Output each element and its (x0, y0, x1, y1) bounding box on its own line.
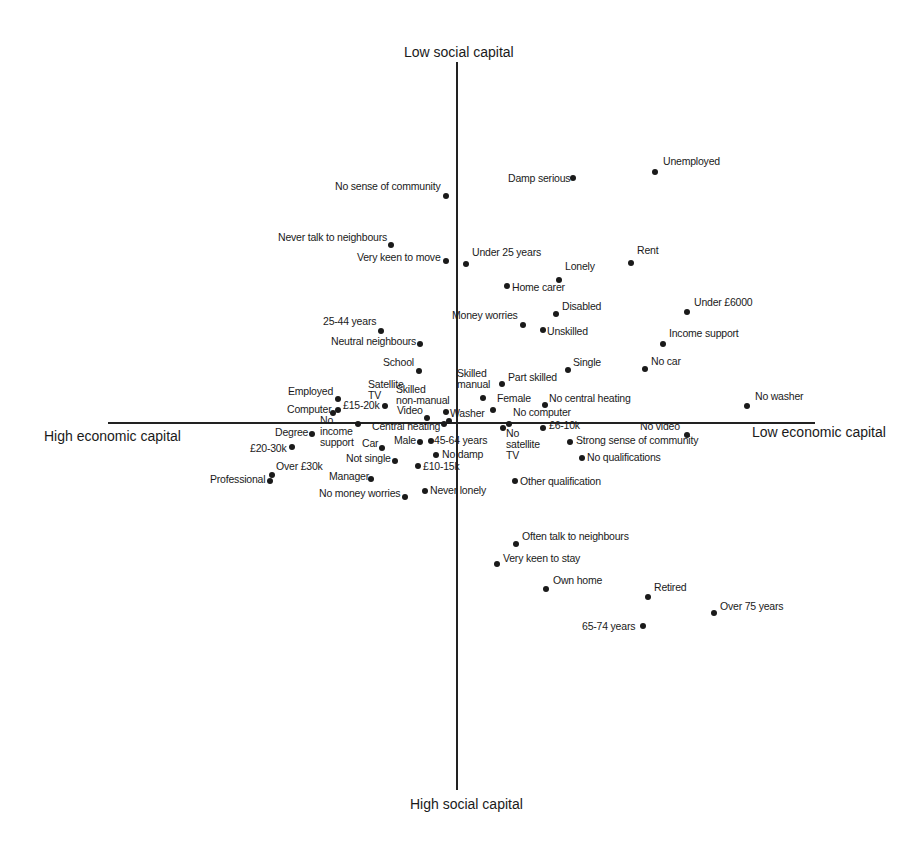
data-point-marker (660, 341, 666, 347)
data-point-marker (388, 242, 394, 248)
data-point-label: Disabled (562, 301, 601, 312)
data-point-marker (309, 431, 315, 437)
data-point-marker (463, 261, 469, 267)
data-point-marker (520, 322, 526, 328)
data-point-label: Employed (288, 386, 333, 397)
data-point-label: Income support (669, 328, 739, 339)
data-point-label: 45-64 years (434, 435, 487, 446)
data-point-label: Degree (275, 427, 308, 438)
data-point-marker (433, 452, 439, 458)
data-point-label: Washer (450, 408, 485, 419)
data-point-marker (289, 444, 295, 450)
data-point-label: Home carer (512, 282, 565, 293)
data-point-marker (512, 478, 518, 484)
data-point-label: No qualifications (587, 452, 661, 463)
data-point-marker (579, 455, 585, 461)
data-point-marker (379, 445, 385, 451)
data-point-label: Never lonely (430, 485, 486, 496)
data-point-marker (402, 494, 408, 500)
data-point-label: £6-10k (549, 420, 580, 431)
data-point-marker (565, 367, 571, 373)
data-point-label: Under 25 years (472, 247, 541, 258)
data-point-label: No sense of community (335, 181, 441, 192)
data-point-label: Female (497, 393, 531, 404)
data-point-label: Lonely (565, 261, 595, 272)
y-axis-line (456, 62, 458, 790)
data-point-label: Single (573, 357, 601, 368)
data-point-marker (441, 421, 447, 427)
data-point-marker (494, 561, 500, 567)
data-point-label: No car (651, 356, 681, 367)
data-point-label: Under £6000 (694, 297, 753, 308)
data-point-marker (504, 283, 510, 289)
data-point-label: Skilled non-manual (396, 384, 449, 406)
data-point-marker (392, 458, 398, 464)
data-point-label: Skilled manual (457, 368, 490, 390)
data-point-marker (415, 463, 421, 469)
data-point-marker (711, 610, 717, 616)
data-point-marker (553, 311, 559, 317)
data-point-label: Male (394, 435, 416, 446)
data-point-label: £20-30k (250, 443, 287, 454)
data-point-marker (382, 403, 388, 409)
data-point-label: Unemployed (663, 156, 720, 167)
data-point-label: Over £30k (276, 461, 323, 472)
data-point-marker (684, 309, 690, 315)
data-point-label: Professional (210, 474, 265, 485)
data-point-marker (540, 425, 546, 431)
data-point-label: Very keen to stay (503, 553, 580, 564)
data-point-marker (335, 396, 341, 402)
data-point-label: Manager (329, 471, 369, 482)
data-point-label: Very keen to move (357, 252, 441, 263)
data-point-label: £10-15k (423, 461, 460, 472)
data-point-marker (490, 407, 496, 413)
data-point-marker (513, 541, 519, 547)
data-point-marker (378, 328, 384, 334)
data-point-marker (417, 439, 423, 445)
data-point-label: Other qualification (520, 476, 601, 487)
data-point-label: No central heating (549, 393, 631, 404)
data-point-marker (443, 193, 449, 199)
data-point-label: Neutral neighbours (331, 336, 416, 347)
data-point-marker (416, 368, 422, 374)
data-point-label: School (383, 357, 414, 368)
data-point-marker (540, 327, 546, 333)
data-point-label: 25-44 years (323, 316, 376, 327)
data-point-label: Never talk to neighbours (278, 232, 387, 243)
data-point-label: No money worries (319, 488, 400, 499)
data-point-marker (567, 439, 573, 445)
correspondence-analysis-chart: Low social capital High social capital H… (0, 0, 918, 851)
data-point-label: Money worries (452, 310, 518, 321)
data-point-marker (443, 258, 449, 264)
data-point-marker (570, 175, 576, 181)
data-point-marker (642, 366, 648, 372)
data-point-label: £15-20k (343, 400, 380, 411)
data-point-marker (267, 478, 273, 484)
data-point-label: Over 75 years (720, 601, 783, 612)
data-point-marker (640, 623, 646, 629)
axis-title-top: Low social capital (404, 44, 514, 60)
data-point-marker (480, 395, 486, 401)
data-point-marker (499, 381, 505, 387)
data-point-label: Car (362, 438, 378, 449)
data-point-label: Rent (637, 245, 658, 256)
data-point-label: No washer (755, 391, 803, 402)
data-point-label: No video (640, 421, 680, 432)
data-point-label: Unskilled (547, 326, 588, 337)
data-point-marker (355, 421, 361, 427)
data-point-label: Often talk to neighbours (522, 531, 629, 542)
data-point-label: Part skilled (508, 372, 557, 383)
data-point-marker (417, 341, 423, 347)
x-axis-line (108, 422, 815, 424)
data-point-label: Own home (553, 575, 602, 586)
data-point-label: No damp (442, 449, 483, 460)
data-point-label: Retired (654, 582, 686, 593)
data-point-label: Strong sense of community (576, 435, 698, 446)
data-point-label: No computer (513, 407, 571, 418)
data-point-marker (443, 409, 449, 415)
data-point-marker (628, 260, 634, 266)
axis-title-bottom: High social capital (410, 796, 523, 812)
data-point-label: 65-74 years (582, 621, 635, 632)
data-point-label: No satellite TV (506, 428, 540, 461)
data-point-marker (744, 403, 750, 409)
